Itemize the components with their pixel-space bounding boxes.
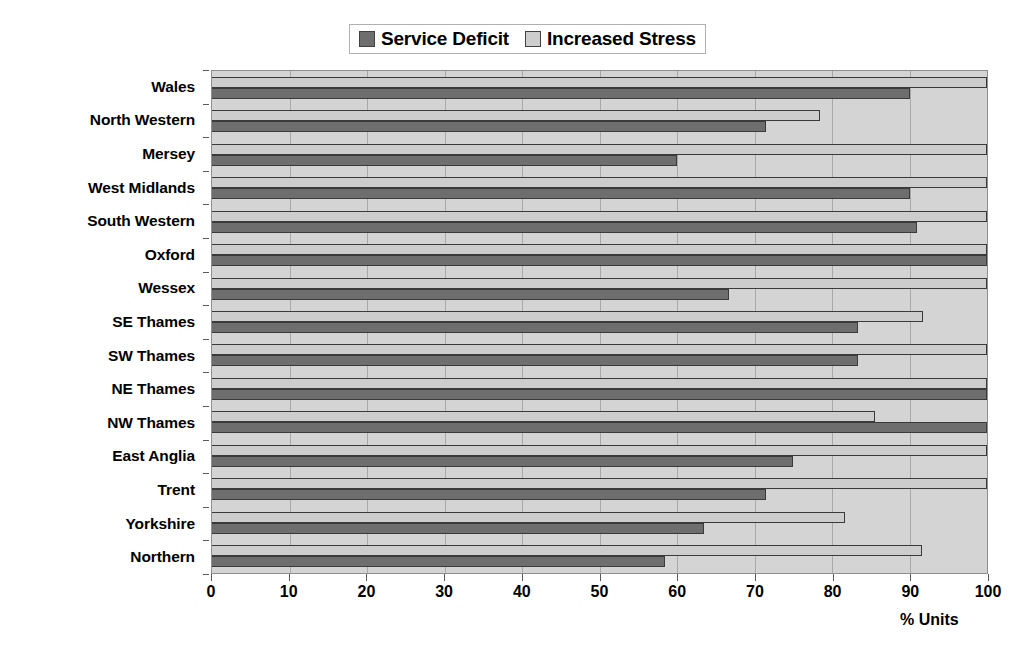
bar-increased-stress xyxy=(212,244,987,255)
bar-group xyxy=(212,406,987,439)
x-axis-tick xyxy=(755,574,756,581)
bar-increased-stress xyxy=(212,177,987,188)
x-axis-tick xyxy=(988,574,989,581)
y-axis-label: NE Thames xyxy=(0,372,203,406)
y-axis-category-labels: WalesNorth WesternMerseyWest MidlandsSou… xyxy=(0,70,203,574)
y-axis-tick xyxy=(203,507,209,508)
y-axis-tick xyxy=(203,440,209,441)
bar-increased-stress xyxy=(212,512,845,523)
x-axis-tick-label: 10 xyxy=(280,583,298,601)
bar-group xyxy=(212,339,987,372)
x-axis-tick-label: 30 xyxy=(435,583,453,601)
bar-service-deficit xyxy=(212,389,987,400)
y-axis-tick xyxy=(203,305,209,306)
bar-service-deficit xyxy=(212,155,677,166)
x-axis-tick-label: 50 xyxy=(591,583,609,601)
y-axis-tick xyxy=(203,272,209,273)
bar-group xyxy=(212,104,987,137)
x-axis-tick-label: 20 xyxy=(357,583,375,601)
y-axis-label: Oxford xyxy=(0,238,203,272)
x-axis-tick-label: 40 xyxy=(513,583,531,601)
bar-group xyxy=(212,372,987,405)
x-axis-tick xyxy=(910,574,911,581)
bar-increased-stress xyxy=(212,110,820,121)
bar-service-deficit xyxy=(212,88,910,99)
bar-increased-stress xyxy=(212,311,923,322)
x-axis-tick-label: 80 xyxy=(824,583,842,601)
x-axis-tick xyxy=(289,574,290,581)
bar-increased-stress xyxy=(212,445,987,456)
bar-service-deficit xyxy=(212,121,766,132)
bar-service-deficit xyxy=(212,355,858,366)
y-axis-label: Northern xyxy=(0,540,203,574)
bar-group xyxy=(212,205,987,238)
y-axis-tick xyxy=(203,137,209,138)
y-axis-label: NW Thames xyxy=(0,406,203,440)
bar-group xyxy=(212,171,987,204)
bar-group xyxy=(212,138,987,171)
y-axis-tick xyxy=(203,473,209,474)
y-axis-label: Wales xyxy=(0,70,203,104)
bar-increased-stress xyxy=(212,478,987,489)
x-axis-tick xyxy=(444,574,445,581)
bar-service-deficit xyxy=(212,222,917,233)
y-axis-tick xyxy=(203,540,209,541)
legend-swatch-icon-increased-stress xyxy=(525,31,541,47)
y-axis-label: SE Thames xyxy=(0,305,203,339)
y-axis-tick xyxy=(203,104,209,105)
bar-increased-stress xyxy=(212,144,987,155)
bar-service-deficit xyxy=(212,289,729,300)
bar-service-deficit xyxy=(212,489,766,500)
x-axis-tick xyxy=(211,574,212,581)
bar-group xyxy=(212,506,987,539)
y-axis-label: South Western xyxy=(0,204,203,238)
y-axis-label: Wessex xyxy=(0,272,203,306)
bar-groups xyxy=(212,71,987,573)
y-axis-tick xyxy=(203,171,209,172)
chart-legend: Service Deficit Increased Stress xyxy=(349,24,706,54)
x-axis-tick xyxy=(366,574,367,581)
y-axis-tick xyxy=(203,406,209,407)
bar-increased-stress xyxy=(212,344,987,355)
bar-increased-stress xyxy=(212,545,922,556)
y-axis-tick xyxy=(203,339,209,340)
x-axis-ticks xyxy=(211,574,988,581)
legend-label-service-deficit: Service Deficit xyxy=(381,29,509,48)
y-axis-tick xyxy=(203,238,209,239)
plot-wrapper xyxy=(211,70,988,574)
bar-service-deficit xyxy=(212,255,987,266)
x-axis-tick xyxy=(833,574,834,581)
bar-group xyxy=(212,238,987,271)
y-axis-tick xyxy=(203,204,209,205)
y-axis-tick xyxy=(203,372,209,373)
bar-group xyxy=(212,439,987,472)
legend-entry-service-deficit: Service Deficit xyxy=(359,29,509,48)
x-axis-tick-label: 100 xyxy=(975,583,1002,601)
x-axis-tick xyxy=(677,574,678,581)
bar-group xyxy=(212,540,987,573)
x-axis-tick xyxy=(522,574,523,581)
y-axis-label: East Anglia xyxy=(0,440,203,474)
y-axis-label: North Western xyxy=(0,104,203,138)
x-axis-tick-label: 90 xyxy=(901,583,919,601)
x-axis-title: % Units xyxy=(900,611,959,629)
x-axis-tick xyxy=(600,574,601,581)
bar-service-deficit xyxy=(212,556,665,567)
y-axis-tick xyxy=(203,70,209,71)
y-axis-tick xyxy=(203,574,209,575)
legend-swatch-icon-service-deficit xyxy=(359,31,375,47)
legend-label-increased-stress: Increased Stress xyxy=(547,29,696,48)
bar-increased-stress xyxy=(212,278,987,289)
bar-group xyxy=(212,473,987,506)
bar-group xyxy=(212,305,987,338)
bar-service-deficit xyxy=(212,422,987,433)
y-axis-label: SW Thames xyxy=(0,339,203,373)
bar-increased-stress xyxy=(212,411,875,422)
bar-chart: Service Deficit Increased Stress WalesNo… xyxy=(0,0,1021,665)
bar-service-deficit xyxy=(212,322,858,333)
y-axis-label: Yorkshire xyxy=(0,507,203,541)
gridline xyxy=(987,71,988,573)
x-axis-tick-label: 60 xyxy=(668,583,686,601)
y-axis-label: West Midlands xyxy=(0,171,203,205)
bar-service-deficit xyxy=(212,456,793,467)
